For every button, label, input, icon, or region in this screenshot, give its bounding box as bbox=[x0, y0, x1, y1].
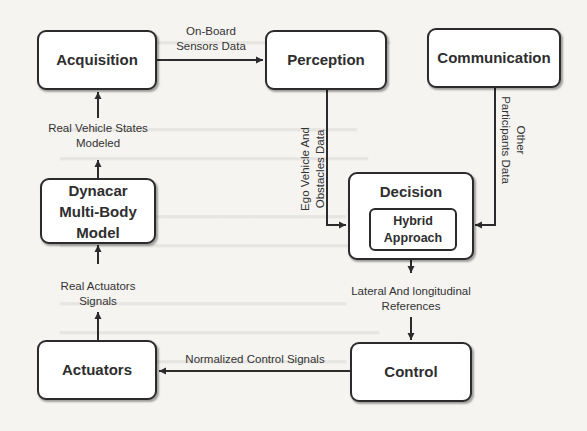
arrow-communication-to-decision bbox=[475, 88, 495, 225]
node-decision: Decision Hybrid Approach bbox=[348, 172, 474, 260]
edge-label-real-vehicle-states: Real Vehicle States Modeled bbox=[38, 121, 158, 151]
edge-label-other-participants: Other Participants Data bbox=[498, 80, 528, 200]
node-communication: Communication bbox=[427, 28, 561, 88]
node-perception: Perception bbox=[265, 30, 387, 90]
edge-label-line: References bbox=[336, 299, 486, 314]
node-hybrid-approach: Hybrid Approach bbox=[369, 208, 457, 251]
edge-label-line: Participants Data bbox=[498, 80, 513, 200]
node-acquisition: Acquisition bbox=[37, 30, 157, 90]
edge-label-line: Lateral And longitudinal bbox=[336, 284, 486, 299]
node-dynacar-line1: Dynacar bbox=[68, 180, 127, 201]
node-communication-label: Communication bbox=[437, 48, 550, 68]
node-decision-label: Decision bbox=[350, 182, 472, 202]
edge-label-onboard-sensors: On-Board Sensors Data bbox=[168, 24, 254, 54]
arrow-perception-to-decision bbox=[327, 90, 346, 225]
edge-label-line: Real Actuators bbox=[48, 279, 148, 294]
node-dynacar-line3: Model bbox=[76, 222, 119, 243]
edge-label-line: Obstacles Data bbox=[313, 109, 328, 229]
node-control-label: Control bbox=[384, 362, 437, 382]
node-dynacar-model: Dynacar Multi-Body Model bbox=[40, 178, 156, 244]
edge-label-line: Real Vehicle States bbox=[38, 121, 158, 136]
edge-label-normalized-control: Normalized Control Signals bbox=[170, 352, 340, 367]
node-perception-label: Perception bbox=[287, 50, 365, 70]
node-hybrid-line2: Approach bbox=[384, 230, 442, 247]
edge-label-line: Signals bbox=[48, 294, 148, 309]
edge-label-line: Ego Vehicle And bbox=[298, 109, 313, 229]
node-actuators-label: Actuators bbox=[62, 360, 132, 380]
node-dynacar-line2: Multi-Body bbox=[59, 201, 136, 222]
edge-label-real-actuators: Real Actuators Signals bbox=[48, 279, 148, 309]
edge-label-line: On-Board bbox=[168, 24, 254, 39]
node-control: Control bbox=[350, 342, 472, 402]
edge-label-ego-vehicle-obstacles: Ego Vehicle And Obstacles Data bbox=[298, 109, 328, 229]
diagram-canvas: ━━━━━━━━━━━━━━━━━━━━━━━━━━━━━━ ━━━━━━━━━… bbox=[0, 0, 587, 431]
node-hybrid-line1: Hybrid bbox=[393, 213, 433, 230]
edge-label-lateral-longitudinal: Lateral And longitudinal References bbox=[336, 284, 486, 314]
edge-label-line: Modeled bbox=[38, 136, 158, 151]
edge-label-line: Other bbox=[513, 80, 528, 200]
node-actuators: Actuators bbox=[37, 340, 157, 400]
edge-label-line: Sensors Data bbox=[168, 39, 254, 54]
node-acquisition-label: Acquisition bbox=[56, 50, 138, 70]
edge-label-line: Normalized Control Signals bbox=[170, 352, 340, 367]
